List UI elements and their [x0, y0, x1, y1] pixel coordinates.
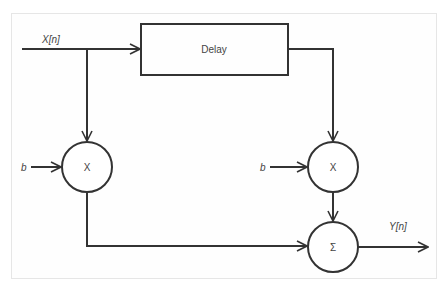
delay-output-line: [288, 49, 333, 141]
output-label: Y[n]: [389, 221, 407, 232]
right-gain-label: b: [260, 162, 266, 173]
left-to-sum-line: [87, 192, 307, 246]
left-gain-label: b: [21, 162, 27, 173]
delay-block: Delay: [141, 24, 288, 75]
right-multiplier-node: X: [308, 142, 358, 192]
sum-node: Σ: [308, 222, 358, 272]
input-label: X[n]: [41, 34, 60, 45]
sum-symbol: Σ: [330, 242, 336, 253]
left-multiplier-symbol: X: [84, 162, 91, 173]
left-multiplier-node: X: [62, 142, 112, 192]
delay-label: Delay: [201, 44, 227, 55]
right-multiplier-symbol: X: [330, 162, 337, 173]
fir-filter-diagram: X[n] Delay b X b X Σ Y[n]: [0, 0, 448, 291]
